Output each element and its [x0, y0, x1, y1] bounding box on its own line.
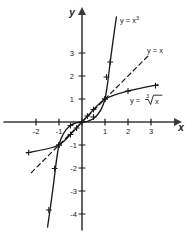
y-tick-label-neg4: -4	[70, 210, 77, 219]
y-tick-label-neg2: -2	[70, 164, 77, 173]
curve-label-cuberoot-index: 3	[146, 93, 149, 99]
y-axis-label: y	[68, 7, 75, 18]
curve-label-cuberoot-lhs: y =	[130, 96, 141, 105]
y-tick-label-neg3: -3	[70, 187, 77, 196]
function-graph-svg: -2 -1 1 2 3 3 2 1 -1 -2 -3 -4 x y	[0, 0, 192, 238]
point-marker	[52, 166, 57, 171]
x-tick-label-pos2: 2	[126, 127, 130, 136]
x-tick-label-pos1: 1	[103, 127, 107, 136]
x-tick-label-neg2: -2	[33, 127, 40, 136]
x-tick-label-pos3: 3	[149, 127, 153, 136]
x-axis-label: x	[177, 122, 184, 133]
point-marker	[91, 115, 96, 120]
curve-label-cuberoot: y = 3 x	[130, 93, 162, 106]
curve-label-identity: y = x	[147, 46, 163, 55]
point-marker	[108, 60, 113, 65]
y-axis-arrowhead	[78, 7, 86, 15]
graph-figure: -2 -1 1 2 3 3 2 1 -1 -2 -3 -4 x y	[0, 0, 192, 238]
curve-label-cubic: y = x3	[120, 15, 139, 25]
point-marker	[126, 89, 131, 94]
curve-label-cubic-text: y = x	[120, 16, 136, 25]
y-tick-label-pos1: 1	[70, 95, 74, 104]
curve-label-cuberoot-radicand: x	[155, 97, 159, 106]
tick-labels-group: -2 -1 1 2 3 3 2 1 -1 -2 -3 -4	[33, 49, 153, 219]
y-tick-label-pos2: 2	[70, 72, 74, 81]
y-tick-label-pos3: 3	[70, 49, 74, 58]
y-tick-label-neg1: -1	[70, 141, 77, 150]
point-marker	[26, 150, 31, 155]
point-marker	[153, 83, 158, 88]
curve-label-cubic-exponent: 3	[136, 15, 139, 21]
x-tick-label-neg1: -1	[56, 127, 63, 136]
curve-cubic-points	[46, 60, 112, 213]
